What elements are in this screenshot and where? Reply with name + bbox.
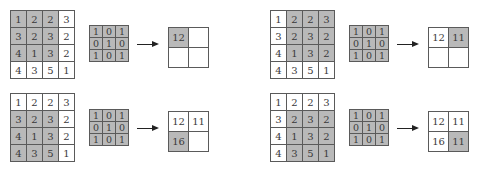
kernel-cell: 1 [90, 110, 103, 122]
input-cell: 2 [287, 11, 303, 28]
input-cell: 3 [43, 28, 59, 45]
kernel-cell: 1 [350, 134, 363, 146]
input-cell: 3 [303, 111, 319, 128]
input-matrix: 1223 3232 4132 4351 [10, 10, 75, 79]
input-cell: 5 [43, 62, 59, 79]
input-cell: 2 [43, 11, 59, 28]
input-cell: 1 [271, 11, 287, 28]
input-cell: 3 [271, 111, 287, 128]
kernel-cell: 0 [90, 38, 103, 50]
input-cell: 1 [11, 94, 27, 111]
output-cell [189, 48, 209, 68]
output-cell: 12 [169, 112, 189, 132]
output-cell [429, 48, 449, 68]
kernel-cell: 0 [116, 122, 129, 134]
right-arrow-icon [137, 128, 157, 129]
input-cell: 1 [27, 45, 43, 62]
kernel-cell: 0 [363, 134, 376, 146]
kernel-cell: 1 [103, 38, 116, 50]
input-cell: 1 [287, 128, 303, 145]
output-matrix: 1211 [428, 27, 469, 68]
input-cell: 2 [27, 94, 43, 111]
kernel-cell: 1 [376, 110, 389, 122]
kernel-cell: 0 [103, 26, 116, 38]
input-cell: 2 [43, 94, 59, 111]
input-cell: 1 [319, 62, 335, 79]
kernel-cell: 0 [363, 50, 376, 62]
input-cell: 3 [43, 111, 59, 128]
input-cell: 2 [303, 94, 319, 111]
input-cell: 3 [43, 45, 59, 62]
kernel-cell: 1 [350, 110, 363, 122]
kernel-cell: 0 [376, 38, 389, 50]
output-cell: 12 [429, 28, 449, 48]
kernel-cell: 0 [350, 122, 363, 134]
input-cell: 1 [271, 94, 287, 111]
kernel-matrix: 101 010 101 [89, 25, 129, 62]
input-cell: 3 [287, 145, 303, 162]
kernel-cell: 0 [103, 110, 116, 122]
kernel-cell: 1 [116, 110, 129, 122]
kernel-cell: 0 [363, 26, 376, 38]
output-cell: 12 [169, 28, 189, 48]
conv-step-2: 1223 3232 4132 4351 101 010 101 1211 [260, 0, 477, 86]
conv-step-3: 1223 3232 4132 4351 101 010 101 1211 16 [0, 86, 238, 172]
output-cell: 11 [449, 132, 469, 152]
kernel-cell: 1 [90, 26, 103, 38]
kernel-cell: 0 [90, 122, 103, 134]
input-cell: 2 [27, 11, 43, 28]
input-cell: 2 [59, 45, 75, 62]
kernel-cell: 1 [363, 122, 376, 134]
input-cell: 4 [11, 45, 27, 62]
input-cell: 3 [27, 62, 43, 79]
input-cell: 2 [319, 111, 335, 128]
input-cell: 4 [271, 62, 287, 79]
input-cell: 3 [11, 111, 27, 128]
kernel-cell: 1 [376, 50, 389, 62]
output-matrix: 1211 1611 [428, 111, 469, 152]
input-cell: 1 [319, 145, 335, 162]
kernel-cell: 0 [116, 38, 129, 50]
kernel-cell: 1 [116, 134, 129, 146]
input-matrix: 1223 3232 4132 4351 [270, 10, 335, 79]
input-cell: 5 [303, 62, 319, 79]
right-arrow-icon [397, 44, 417, 45]
input-cell: 2 [59, 128, 75, 145]
output-cell [449, 48, 469, 68]
input-cell: 5 [303, 145, 319, 162]
input-cell: 2 [59, 111, 75, 128]
kernel-cell: 1 [90, 50, 103, 62]
output-cell: 11 [449, 28, 469, 48]
input-cell: 4 [11, 145, 27, 162]
input-cell: 3 [59, 11, 75, 28]
input-matrix: 1223 3232 4132 4351 [270, 93, 335, 162]
kernel-cell: 1 [116, 26, 129, 38]
kernel-cell: 1 [350, 50, 363, 62]
output-cell: 12 [429, 112, 449, 132]
input-cell: 1 [11, 11, 27, 28]
input-cell: 1 [27, 128, 43, 145]
kernel-matrix: 101 010 101 [349, 109, 389, 146]
input-cell: 3 [319, 94, 335, 111]
output-cell: 16 [169, 132, 189, 152]
input-cell: 4 [11, 62, 27, 79]
kernel-cell: 0 [103, 134, 116, 146]
input-cell: 3 [287, 62, 303, 79]
input-cell: 2 [319, 45, 335, 62]
input-cell: 2 [27, 28, 43, 45]
kernel-cell: 0 [363, 110, 376, 122]
kernel-cell: 1 [376, 134, 389, 146]
input-cell: 3 [319, 11, 335, 28]
input-cell: 5 [43, 145, 59, 162]
input-cell: 2 [27, 111, 43, 128]
output-matrix: 12 [168, 27, 209, 68]
output-matrix: 1211 16 [168, 111, 209, 152]
input-cell: 4 [11, 128, 27, 145]
input-cell: 3 [303, 28, 319, 45]
input-cell: 3 [27, 145, 43, 162]
input-matrix: 1223 3232 4132 4351 [10, 93, 75, 162]
output-cell: 11 [449, 112, 469, 132]
input-cell: 2 [303, 11, 319, 28]
right-arrow-icon [397, 128, 417, 129]
input-cell: 2 [319, 128, 335, 145]
